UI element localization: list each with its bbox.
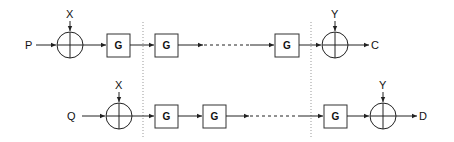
summing-junction-3 xyxy=(106,103,132,129)
summing-junction-4 xyxy=(370,103,396,129)
g-block-4: G xyxy=(155,105,178,128)
row-1: P X G G G Y xyxy=(25,8,379,58)
input-label-x-bottom: X xyxy=(115,79,123,91)
g-block-2: G xyxy=(155,34,178,57)
svg-text:G: G xyxy=(332,111,340,122)
row-2: Q X G G G Y xyxy=(67,79,427,129)
input-label-p: P xyxy=(25,39,32,51)
svg-text:G: G xyxy=(283,40,291,51)
input-label-x-top: X xyxy=(66,8,74,20)
g-block-5: G xyxy=(203,105,226,128)
summing-junction-2 xyxy=(322,32,348,58)
svg-text:G: G xyxy=(163,40,171,51)
g-block-1: G xyxy=(107,34,130,57)
g-block-6: G xyxy=(324,105,347,128)
input-label-y-top: Y xyxy=(331,8,339,20)
g-block-3: G xyxy=(275,34,299,57)
input-label-q: Q xyxy=(67,110,76,122)
summing-junction-1 xyxy=(57,32,83,58)
output-label-d: D xyxy=(419,110,427,122)
svg-text:G: G xyxy=(115,40,123,51)
svg-text:G: G xyxy=(211,111,219,122)
block-diagram: P X G G G Y xyxy=(0,0,454,142)
svg-text:G: G xyxy=(163,111,171,122)
output-label-c: C xyxy=(371,39,379,51)
input-label-y-bottom: Y xyxy=(379,79,387,91)
